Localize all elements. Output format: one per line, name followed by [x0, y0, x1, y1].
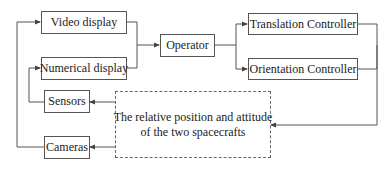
display-merge-line	[127, 22, 137, 68]
operator-box: Operator	[160, 34, 215, 57]
sensors-box: Sensors	[44, 90, 90, 113]
video-display-box: Video display	[41, 11, 127, 34]
environment-label-line2: of the two spacecrafts	[141, 125, 246, 140]
control-loop-diagram: Video display Numerical display Operator…	[0, 0, 388, 170]
numerical-display-box: Numerical display	[41, 57, 127, 80]
cameras-box: Cameras	[44, 136, 90, 159]
environment-label-line1: The relative position and attitude	[114, 110, 273, 125]
environment-box: The relative position and attitude of th…	[115, 91, 271, 158]
controller-merge-line	[358, 24, 377, 69]
orientation-controller-box: Orientation Controller	[248, 58, 358, 80]
arrow-cameras-to-video	[17, 22, 44, 147]
translation-controller-box: Translation Controller	[248, 13, 358, 35]
arrow-to-environment	[271, 45, 377, 125]
